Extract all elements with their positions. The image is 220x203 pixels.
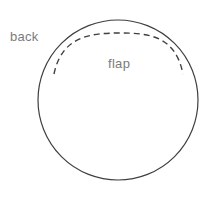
back-circle-outline xyxy=(38,20,198,180)
label-flap: flap xyxy=(108,57,130,70)
diagram-canvas: back flap xyxy=(0,0,220,203)
label-back: back xyxy=(10,30,39,43)
